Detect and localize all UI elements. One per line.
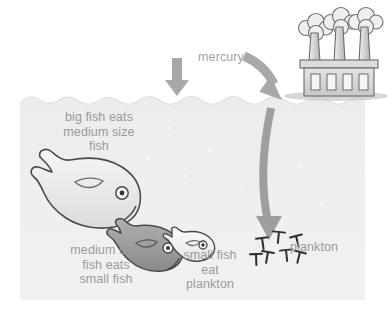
label-mercury: mercury xyxy=(186,50,256,65)
small-fish-pupil xyxy=(201,243,204,246)
factory-window xyxy=(359,74,368,90)
smokestack-2 xyxy=(334,27,345,62)
label-big-fish-eats-medium-size-fish: big fish eats medium size fish xyxy=(38,110,160,154)
label-small-fish-eat-plankton: small fish eat plankton xyxy=(166,248,254,292)
factory-icon xyxy=(284,8,388,102)
smokestack-1 xyxy=(309,33,320,62)
factory-window xyxy=(311,74,320,90)
mercury-food-chain-diagram: mercury big fish eats medium size fish m… xyxy=(0,0,392,325)
factory-roof xyxy=(300,60,378,68)
factory-window xyxy=(327,74,336,90)
factory-window xyxy=(343,74,352,90)
label-medium-size-fish-eats-small-fish: medium size fish eats small fish xyxy=(42,243,170,287)
label-plankton: plankton xyxy=(290,240,370,255)
big-fish-pupil xyxy=(120,191,125,196)
smokestack-3 xyxy=(359,27,370,62)
